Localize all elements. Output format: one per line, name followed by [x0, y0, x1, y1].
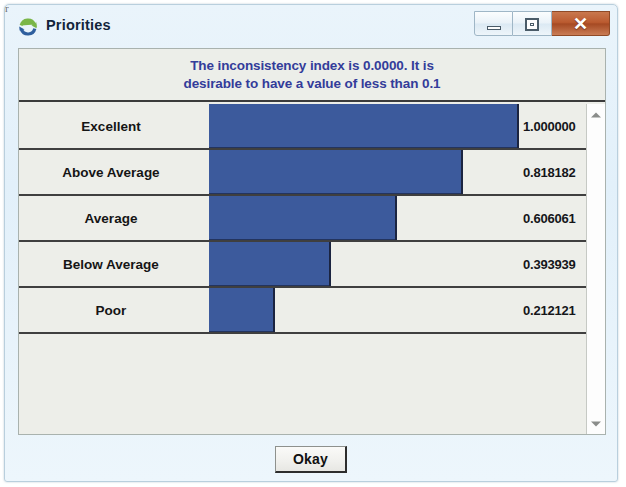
bar-excellent [209, 104, 519, 148]
chart-vertical-scrollbar[interactable] [586, 104, 605, 434]
priorities-bar-chart: Excellent 1.000000 Above Average 0.81818… [19, 104, 605, 434]
table-row[interactable]: Average 0.606061 [19, 196, 605, 242]
row-label-above-average: Above Average [19, 150, 209, 194]
refresh-circle-icon [18, 17, 38, 37]
maximize-icon [525, 18, 539, 31]
table-row[interactable]: Below Average 0.393939 [19, 242, 605, 288]
row-value-above-average: 0.818182 [523, 150, 576, 194]
row-value-excellent: 1.000000 [523, 104, 576, 148]
bar-track [209, 288, 519, 332]
bar-track [209, 104, 519, 148]
inconsistency-index-message: The inconsistency index is 0.0000. It is… [184, 57, 441, 93]
maximize-button[interactable] [513, 11, 552, 36]
row-label-below-average: Below Average [19, 242, 209, 286]
close-icon: ✕ [552, 14, 609, 35]
dialog-button-bar: Okay [5, 437, 617, 483]
bar-poor [209, 288, 275, 332]
row-label-poor: Poor [19, 288, 209, 332]
scan-artifact-mark: r [5, 4, 10, 13]
dialog-client-area: The inconsistency index is 0.0000. It is… [18, 48, 606, 435]
scroll-up-arrow-icon[interactable] [587, 106, 605, 123]
minimize-icon [487, 26, 501, 30]
inconsistency-index-panel: The inconsistency index is 0.0000. It is… [19, 49, 605, 102]
scroll-down-arrow-icon[interactable] [587, 415, 605, 432]
bar-below-average [209, 242, 331, 286]
window-controls: ✕ [474, 11, 610, 38]
table-row[interactable]: Above Average 0.818182 [19, 150, 605, 196]
table-row[interactable]: Poor 0.212121 [19, 288, 605, 334]
row-label-average: Average [19, 196, 209, 240]
okay-button[interactable]: Okay [275, 446, 347, 473]
row-value-below-average: 0.393939 [523, 242, 576, 286]
bar-track [209, 196, 519, 240]
window-title: Priorities [46, 17, 111, 33]
row-value-average: 0.606061 [523, 196, 576, 240]
row-label-excellent: Excellent [19, 104, 209, 148]
minimize-button[interactable] [474, 11, 513, 36]
bar-above-average [209, 150, 463, 194]
table-row[interactable]: Excellent 1.000000 [19, 104, 605, 150]
priorities-window: Priorities ✕ The inconsistency index is … [4, 4, 618, 482]
window-titlebar[interactable]: Priorities ✕ [5, 5, 617, 47]
bar-track [209, 242, 519, 286]
bar-average [209, 196, 397, 240]
row-value-poor: 0.212121 [523, 288, 576, 332]
bar-track [209, 150, 519, 194]
close-button[interactable]: ✕ [552, 11, 610, 36]
